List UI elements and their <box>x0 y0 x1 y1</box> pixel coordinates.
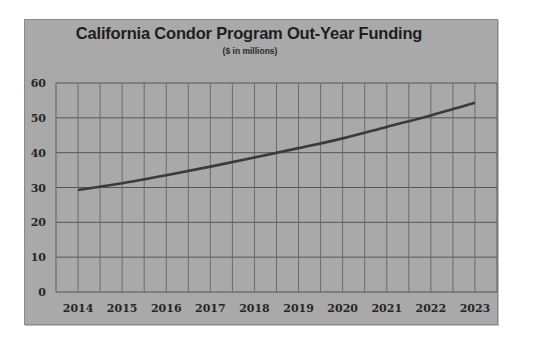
x-tick-label: 2021 <box>371 302 402 315</box>
x-tick-label: 2016 <box>151 302 182 315</box>
x-tick-label: 2014 <box>63 302 94 315</box>
x-axis-ticks: 2014201520162017201820192020202120222023 <box>63 302 491 315</box>
x-tick-label: 2023 <box>460 302 491 315</box>
y-tick-label: 30 <box>31 182 47 195</box>
x-tick-label: 2020 <box>327 302 358 315</box>
x-tick-label: 2018 <box>239 302 270 315</box>
y-tick-label: 50 <box>31 112 47 125</box>
x-tick-label: 2019 <box>283 302 314 315</box>
x-tick-label: 2015 <box>107 302 138 315</box>
y-tick-label: 20 <box>31 216 47 229</box>
y-tick-label: 40 <box>31 147 47 160</box>
y-axis-ticks: 0102030405060 <box>31 77 47 299</box>
x-tick-label: 2017 <box>195 302 226 315</box>
x-tick-label: 2022 <box>416 302 447 315</box>
y-tick-label: 60 <box>31 77 47 90</box>
y-tick-label: 10 <box>31 251 47 264</box>
y-tick-label: 0 <box>38 286 46 299</box>
plot-area: 0102030405060 20142015201620172018201920… <box>0 0 534 341</box>
